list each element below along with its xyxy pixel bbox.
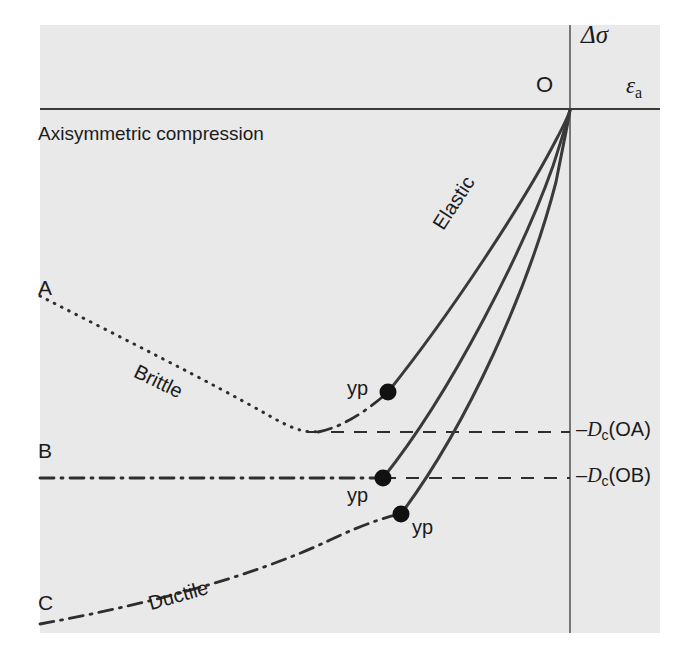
dc-oa-subscript: c (602, 427, 609, 443)
curve-brittle-a (40, 296, 322, 432)
dc-oa-symbol: D (587, 418, 601, 440)
reference-label-dc-oa: –Dc(OA) (576, 419, 651, 442)
dc-ob-symbol: D (587, 464, 601, 486)
curve-start-label-a: A (38, 277, 52, 298)
y-axis-label: Δσ (581, 22, 608, 47)
curve-ductile-c (40, 514, 401, 624)
yield-point-label-intermediate: yp (347, 485, 368, 505)
marker-yp-ductile (393, 506, 410, 523)
reference-label-dc-ob: –Dc(OB) (576, 465, 651, 488)
marker-yp-brittle (380, 384, 397, 401)
dc-oa-prefix: – (576, 418, 587, 440)
x-axis-label-symbol: ε (626, 73, 635, 98)
plot-canvas (0, 0, 691, 660)
curve-start-label-b: B (38, 440, 52, 461)
condition-label: Axisymmetric compression (38, 124, 264, 143)
dc-ob-arg: (OB) (609, 464, 651, 486)
x-axis-label: εa (626, 74, 642, 101)
marker-yp-intermediate (375, 470, 392, 487)
curve-start-label-c: C (38, 592, 53, 613)
curve-elastic-from-c (401, 110, 570, 514)
x-axis-label-subscript: a (635, 84, 642, 101)
dc-ob-subscript: c (602, 473, 609, 489)
yield-point-label-brittle: yp (347, 378, 368, 398)
dc-ob-prefix: – (576, 464, 587, 486)
curve-elastic-from-a (388, 110, 570, 392)
origin-label: O (536, 74, 553, 96)
dc-oa-arg: (OA) (609, 418, 651, 440)
yield-point-label-ductile: yp (412, 517, 433, 537)
figure-container: Axisymmetric compression O Δσ εa A B C –… (0, 0, 691, 660)
